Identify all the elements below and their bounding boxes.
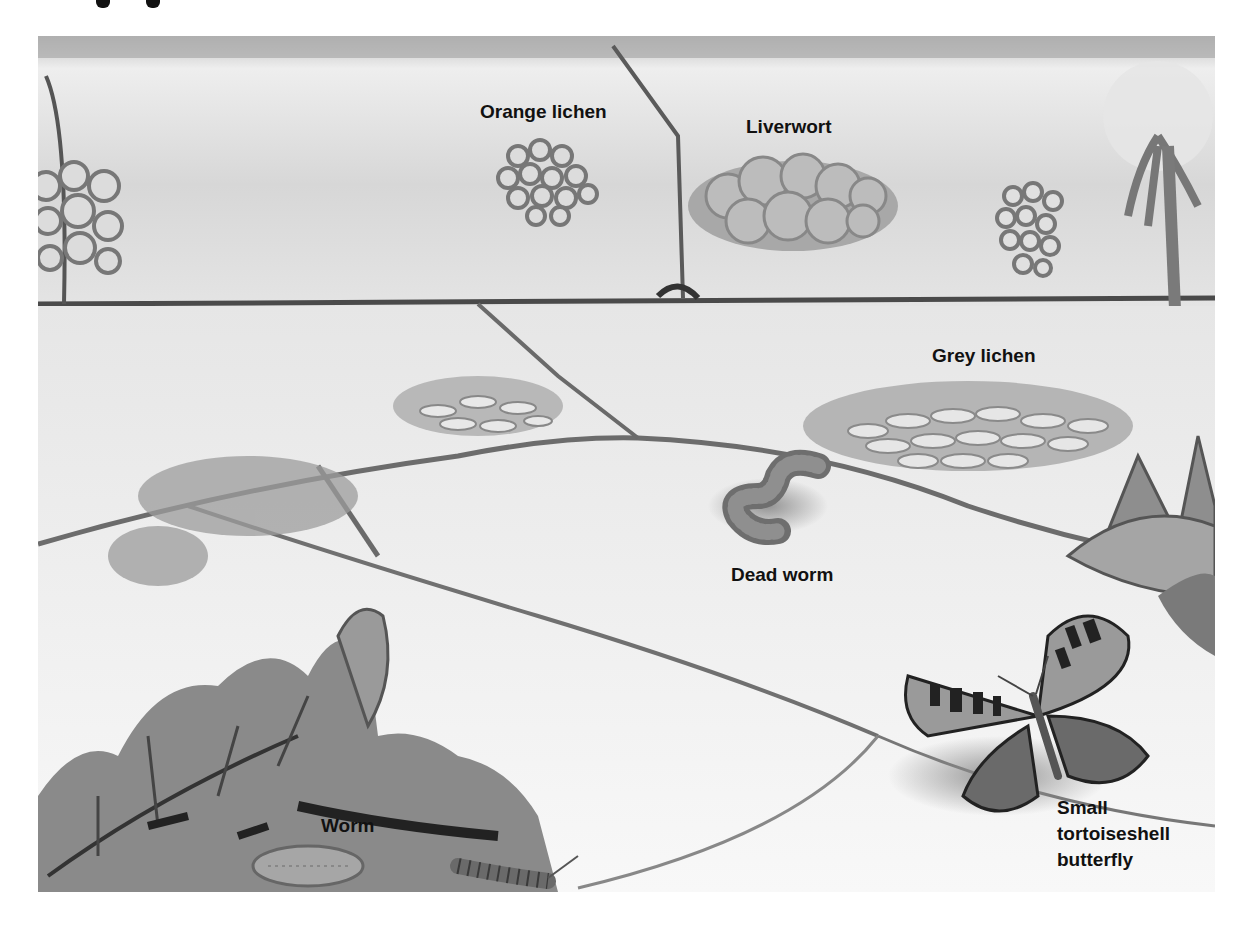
label-grey-lichen: Grey lichen (932, 343, 1036, 369)
label-butterfly-line-3: butterfly (1057, 847, 1197, 873)
label-orange-lichen: Orange lichen (480, 99, 607, 125)
label-dead-worm: Dead worm (731, 562, 833, 588)
label-butterfly: Small tortoiseshell butterfly (1057, 795, 1197, 873)
label-liverwort: Liverwort (746, 114, 832, 140)
orange-lichen-left (38, 162, 122, 273)
label-butterfly-line-1: Small (1057, 795, 1197, 821)
label-butterfly-line-2: tortoiseshell (1057, 821, 1197, 847)
grey-lichen-small (393, 376, 563, 436)
grey-lichen (803, 381, 1133, 471)
cut-off-heading-fragment (60, 0, 320, 8)
worm (253, 846, 363, 886)
habitat-illustration (38, 36, 1215, 892)
label-worm: Worm (321, 813, 374, 839)
